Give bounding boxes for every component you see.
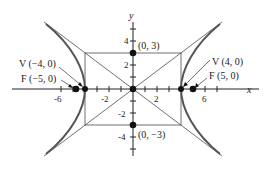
focus-left-label: F (−5, 0) [21, 73, 56, 85]
focus-left-point [73, 86, 80, 93]
x-tick-label: 2 [154, 94, 159, 104]
arrowhead-icon [78, 82, 83, 87]
y-tick-label: -2 [118, 109, 126, 119]
x-tick-label: -6 [54, 94, 62, 104]
co-vertex-top-point [130, 50, 137, 57]
arrowhead-icon [195, 83, 199, 88]
x-tick-label: 6 [202, 94, 207, 104]
co-vertex-top-label: (0, 3) [138, 40, 160, 52]
focus-right-label: F (5, 0) [209, 70, 239, 82]
vertex-right-label: V (4, 0) [212, 56, 243, 68]
vertex-left-arrow [59, 67, 82, 86]
co-vertex-bottom-point [130, 122, 137, 129]
y-tick-label: -4 [118, 132, 126, 142]
x-tick-label: -2 [101, 94, 109, 104]
vertex-left-label: V (−4, 0) [19, 58, 56, 70]
diagram-canvas: -6 -2 2 6 4 2 -2 -4 x y V (−4, 0) F (−5,… [0, 0, 267, 170]
origin-point [130, 86, 137, 93]
y-tick-label: 2 [124, 60, 129, 70]
hyperbola-diagram: -6 -2 2 6 4 2 -2 -4 x y V (−4, 0) F (−5,… [0, 0, 267, 170]
co-vertex-bottom-label: (0, −3) [138, 129, 165, 141]
hyperbola-right-lower [181, 89, 220, 154]
y-tick-label: 4 [124, 36, 129, 46]
hyperbola-left-lower [46, 89, 85, 154]
y-axis-label: y [128, 10, 134, 21]
x-axis-label: x [246, 84, 252, 95]
